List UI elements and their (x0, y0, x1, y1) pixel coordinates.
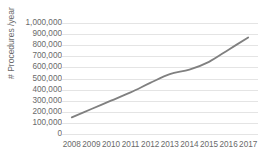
x-axis-tick-label: 2010 (102, 139, 120, 151)
y-axis-tick-label: 400,000 (10, 85, 62, 95)
y-axis-tick-labels: 0100,000200,000300,000400,000500,000600,… (10, 18, 62, 134)
x-axis-tick-label: 2015 (200, 139, 218, 151)
y-axis-tick-label: 700,000 (10, 51, 62, 61)
x-axis-tick-label: 2017 (239, 139, 257, 151)
x-axis-tick-label: 2014 (180, 139, 198, 151)
plot-area (62, 23, 258, 134)
y-axis-tick-label: 100,000 (10, 118, 62, 128)
y-axis-tick-label: 500,000 (10, 74, 62, 84)
line-chart: # Procedures /year 0100,000200,000300,00… (0, 0, 266, 166)
y-axis-tick-label: 200,000 (10, 107, 62, 117)
x-axis-tick-label: 2013 (161, 139, 179, 151)
x-axis-tick-label: 2008 (63, 139, 81, 151)
x-axis-tick-label: 2012 (141, 139, 159, 151)
y-axis-tick-label: 300,000 (10, 96, 62, 106)
x-axis-tick-labels: 2008200920102011201220132014201520162017 (62, 139, 258, 153)
series-path (72, 37, 248, 117)
y-axis-tick-label: 600,000 (10, 62, 62, 72)
y-axis-tick-label: 800,000 (10, 40, 62, 50)
x-axis-tick-label: 2016 (219, 139, 237, 151)
x-axis-tick-label: 2009 (82, 139, 100, 151)
y-axis-tick-label: 0 (10, 129, 62, 139)
y-axis-tick-label: 1,000,000 (10, 18, 62, 28)
y-axis-tick-label: 900,000 (10, 29, 62, 39)
gridline (62, 134, 258, 135)
series-line-procedures (62, 23, 258, 134)
x-axis-tick-label: 2011 (122, 139, 140, 151)
